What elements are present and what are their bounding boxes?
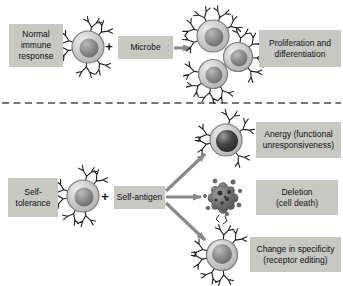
apoptotic-cell-icon [203, 179, 241, 224]
label-deletion: Deletion (cell death) [256, 180, 338, 215]
fan-arrows [166, 154, 205, 240]
plus-sign-bottom: + [98, 190, 112, 204]
anergic-lymphocyte-icon [195, 109, 257, 169]
label-self-antigen: Self-antigen [114, 186, 165, 209]
plus-sign-top: + [102, 40, 116, 54]
label-microbe: Microbe [118, 36, 173, 59]
label-proliferation-differentiation: Proliferation and differentiation [259, 30, 341, 67]
immune-tolerance-diagram: Normal immune response + Microbe Prolife… [0, 0, 343, 286]
label-receptor-editing: Change in specificity (receptor editing) [250, 237, 341, 272]
label-normal-immune-response: Normal immune response [9, 24, 63, 67]
label-anergy: Anergy (functional unresponsiveness) [256, 122, 341, 158]
proliferating-cell-cluster-icon [182, 5, 268, 104]
label-self-tolerance: Self- tolerance [8, 178, 58, 217]
